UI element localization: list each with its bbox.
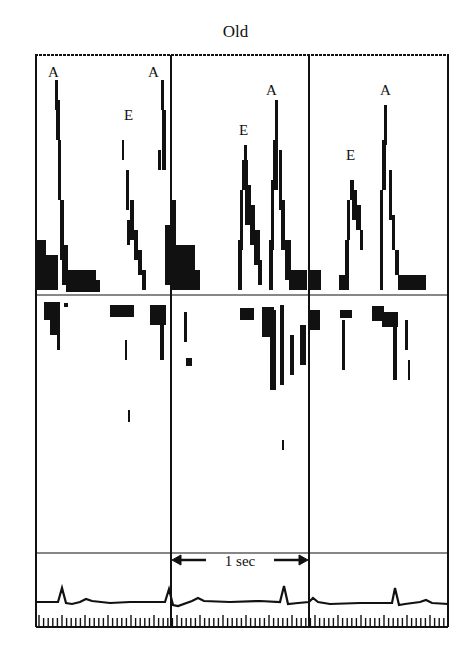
time-scale-label: 1 sec — [225, 553, 256, 569]
time-ruler — [39, 615, 444, 627]
ecg-trace — [36, 586, 448, 606]
label-e-wave: E — [346, 147, 355, 163]
wave-labels: A A E A E A E — [48, 64, 391, 163]
doppler-ecg-figure: A A E A E A E 1 sec — [0, 0, 471, 660]
label-a-wave: A — [266, 82, 277, 98]
label-e-wave: E — [239, 122, 248, 138]
label-a-wave: A — [148, 64, 159, 80]
label-e-wave: E — [124, 107, 133, 123]
doppler-reverse-flow — [44, 302, 410, 450]
doppler-forward-flow — [36, 80, 426, 292]
label-a-wave: A — [380, 82, 391, 98]
label-a-wave: A — [48, 64, 59, 80]
